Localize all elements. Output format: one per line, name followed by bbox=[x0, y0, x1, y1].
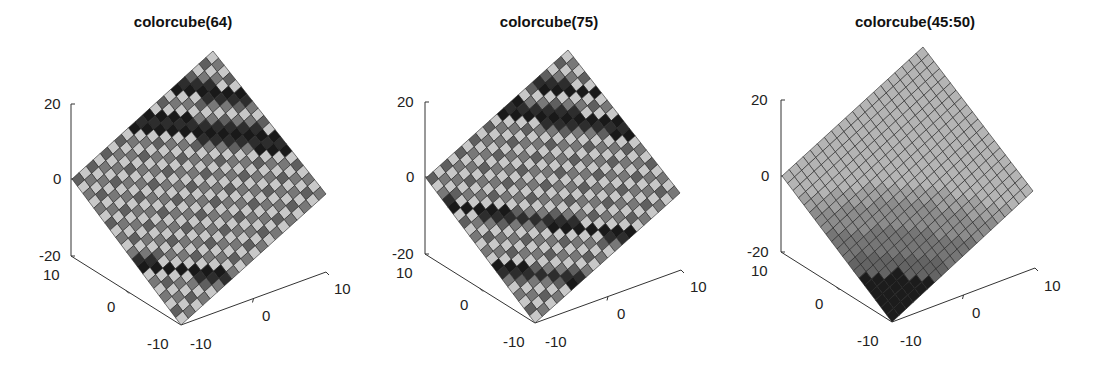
z-tick-minus20: -20 bbox=[39, 248, 61, 263]
x-tick-minus10: -10 bbox=[545, 334, 567, 349]
z-tick-0: 0 bbox=[406, 169, 414, 184]
z-tick-minus20: -20 bbox=[747, 244, 769, 259]
surface-plot-3 bbox=[732, 0, 1098, 366]
x-tick-10: 10 bbox=[1044, 278, 1061, 293]
z-tick-20: 20 bbox=[44, 96, 61, 111]
z-tick-0: 0 bbox=[53, 171, 61, 186]
y-tick-10: 10 bbox=[751, 263, 768, 278]
y-tick-minus10: -10 bbox=[147, 336, 169, 351]
z-tick-20: 20 bbox=[397, 94, 414, 109]
y-tick-minus10: -10 bbox=[503, 334, 525, 349]
plot-panel-1: colorcube(64) 20 0 -20 10 0 -10 -10 0 10 bbox=[0, 0, 366, 366]
z-tick-minus20: -20 bbox=[392, 246, 414, 261]
plot-title: colorcube(64) bbox=[0, 13, 366, 30]
x-tick-10: 10 bbox=[334, 281, 351, 296]
y-tick-10: 10 bbox=[396, 265, 413, 280]
y-tick-10: 10 bbox=[43, 267, 60, 282]
x-tick-0: 0 bbox=[972, 305, 980, 320]
x-tick-minus10: -10 bbox=[190, 336, 212, 351]
surface-plot-2 bbox=[366, 0, 732, 366]
y-tick-minus10: -10 bbox=[857, 333, 879, 348]
plot-panel-3: colorcube(45:50) 20 0 -20 10 0 -10 -10 0… bbox=[732, 0, 1098, 366]
y-tick-0: 0 bbox=[815, 296, 823, 311]
plot-panel-2: colorcube(75) 20 0 -20 10 0 -10 -10 0 10 bbox=[366, 0, 732, 366]
z-tick-20: 20 bbox=[751, 92, 768, 107]
surface-cells bbox=[72, 51, 326, 325]
surface-cells bbox=[782, 47, 1033, 322]
x-tick-0: 0 bbox=[617, 306, 625, 321]
plot-title: colorcube(75) bbox=[366, 13, 732, 30]
plot-title: colorcube(45:50) bbox=[732, 13, 1098, 30]
surface-cells bbox=[426, 50, 680, 323]
x-tick-0: 0 bbox=[262, 308, 270, 323]
z-tick-0: 0 bbox=[761, 168, 769, 183]
y-tick-0: 0 bbox=[107, 299, 115, 314]
x-tick-minus10: -10 bbox=[900, 333, 922, 348]
x-tick-10: 10 bbox=[690, 279, 707, 294]
y-tick-0: 0 bbox=[460, 297, 468, 312]
